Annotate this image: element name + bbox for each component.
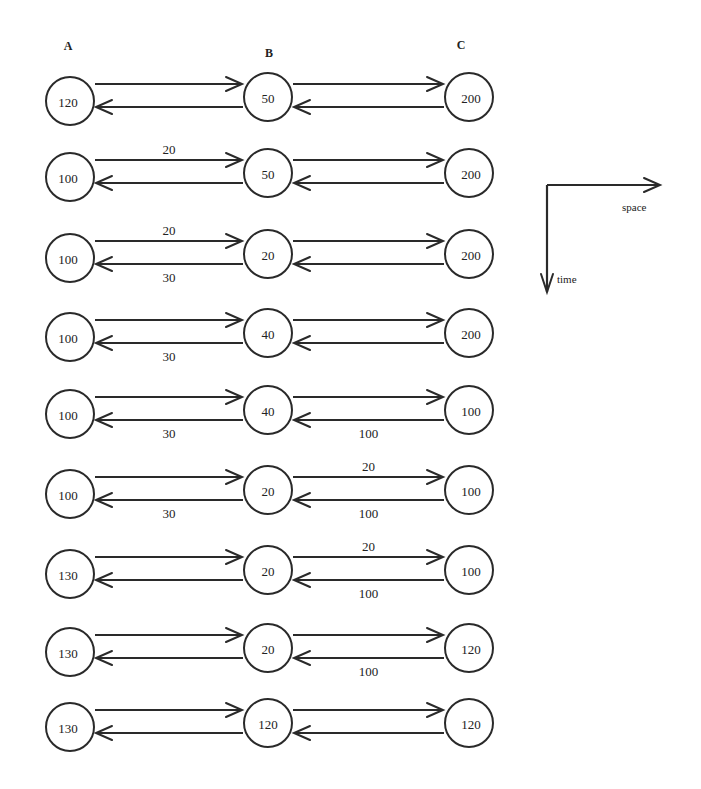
node-value: 100 — [461, 484, 481, 499]
node-value: 200 — [461, 248, 481, 263]
node-value: 200 — [461, 167, 481, 182]
message-label: 20 — [163, 142, 176, 157]
node-value: 100 — [58, 331, 78, 346]
node-value: 120 — [258, 717, 278, 732]
node-value: 100 — [461, 404, 481, 419]
node-value: 130 — [58, 721, 78, 736]
node-value: 20 — [262, 484, 275, 499]
node-value: 100 — [58, 488, 78, 503]
node-value: 40 — [262, 327, 275, 342]
node-value: 100 — [58, 252, 78, 267]
node-value: 100 — [461, 564, 481, 579]
node-value: 20 — [262, 642, 275, 657]
message-label: 100 — [359, 664, 379, 679]
process-label-b: B — [265, 46, 273, 60]
message-label: 20 — [362, 539, 375, 554]
message-label: 20 — [362, 459, 375, 474]
node-value: 130 — [58, 646, 78, 661]
process-label-a: A — [64, 39, 73, 53]
node-value: 120 — [58, 95, 78, 110]
node-value: 120 — [461, 717, 481, 732]
node-value: 100 — [58, 408, 78, 423]
node-value: 100 — [58, 171, 78, 186]
message-label: 100 — [359, 506, 379, 521]
node-value: 20 — [262, 564, 275, 579]
space-time-diagram: ABC1205020020100502002030100202003010040… — [0, 0, 701, 789]
message-label: 30 — [163, 349, 176, 364]
message-label: 20 — [163, 223, 176, 238]
node-value: 200 — [461, 91, 481, 106]
message-label: 30 — [163, 270, 176, 285]
message-label: 30 — [163, 426, 176, 441]
space-label: space — [622, 201, 647, 213]
node-value: 50 — [262, 91, 275, 106]
node-value: 200 — [461, 327, 481, 342]
node-value: 50 — [262, 167, 275, 182]
node-value: 20 — [262, 248, 275, 263]
node-value: 120 — [461, 642, 481, 657]
node-value: 130 — [58, 568, 78, 583]
message-label: 100 — [359, 426, 379, 441]
message-label: 30 — [163, 506, 176, 521]
message-label: 100 — [359, 586, 379, 601]
node-value: 40 — [262, 404, 275, 419]
time-label: time — [557, 273, 577, 285]
process-label-c: C — [457, 38, 466, 52]
